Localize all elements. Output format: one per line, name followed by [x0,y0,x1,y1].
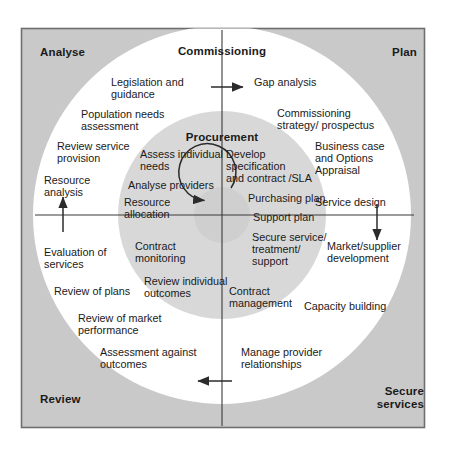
outer-item-commissioning-strategy: Commissioning strategy/ prospectus [277,107,427,131]
outer-item-manage-provider-relationships: Manage provider relationships [241,346,381,370]
inner-item-assess-individual-needs: Assess individual needs [140,148,225,172]
inner-item-secure-service-treatment-support: Secure service/ treatment/ support [252,231,357,267]
outer-item-assessment-against-outcomes: Assessment against outcomes [100,346,240,370]
outer-item-review-of-market-performance: Review of market performance [78,312,208,336]
quadrant-label-review: Review [40,393,81,406]
quadrant-label-secure-services: Secure services [377,385,424,411]
inner-item-contract-monitoring: Contract monitoring [135,240,230,264]
inner-item-review-individual-outcomes: Review individual outcomes [144,275,249,299]
inner-item-purchasing-plan: Purchasing plan [248,192,358,204]
ring-title-commissioning: Commissioning [161,45,283,58]
outer-item-gap-analysis: Gap analysis [254,76,364,88]
ring-title-procurement: Procurement [172,131,272,144]
outer-item-population-needs-assessment: Population needs assessment [81,108,211,132]
diagram-canvas: Analyse Plan Review Secure services Comm… [0,0,451,465]
outer-item-legislation-and-guidance: Legislation and guidance [111,76,226,100]
inner-item-resource-allocation: Resource allocation [124,196,214,220]
inner-item-develop-specification-contract-sla: Develop specification and contract /SLA [226,148,336,184]
quadrant-label-plan: Plan [392,46,417,59]
quadrant-label-analyse: Analyse [40,46,85,59]
inner-item-analyse-providers: Analyse providers [128,179,228,191]
inner-item-support-plan: Support plan [253,211,353,223]
